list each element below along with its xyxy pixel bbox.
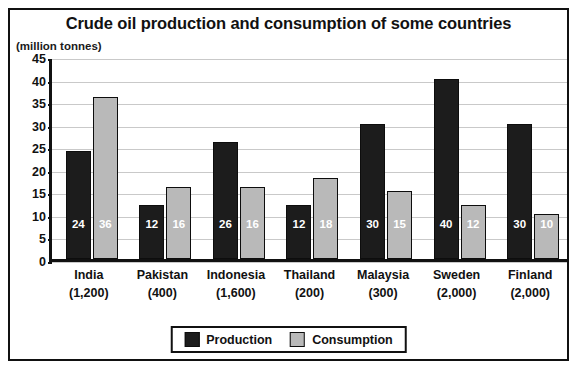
category-name: Thailand [273, 266, 347, 284]
bar-value-label: 18 [314, 218, 337, 230]
y-axis-tick-label: 15 [32, 187, 46, 201]
bar-group: 2616 [202, 59, 276, 259]
y-axis-tick-label: 45 [32, 52, 46, 66]
y-axis-tick-mark [48, 262, 52, 264]
y-axis-tick-label: 25 [32, 142, 46, 156]
bar-production: 30 [507, 124, 532, 259]
y-axis-tick-mark [48, 149, 52, 151]
chart-legend: Production Consumption [170, 326, 407, 353]
category-sublabel: (1,600) [199, 284, 273, 302]
y-axis-tick-mark [48, 59, 52, 61]
x-axis-category-label: Sweden(2,000) [420, 266, 494, 302]
plot-area: 051015202530354045 243612162616121830154… [49, 59, 567, 262]
category-sublabel: (2,000) [493, 284, 567, 302]
bar-production: 12 [286, 205, 311, 259]
x-axis-category-label: Malaysia(300) [346, 266, 420, 302]
legend-swatch-production-icon [184, 332, 199, 347]
y-axis-tick-mark [48, 127, 52, 129]
gridline [52, 262, 567, 263]
category-name: Malaysia [346, 266, 420, 284]
bar-production: 30 [360, 124, 385, 259]
bar-production: 40 [434, 79, 459, 259]
x-axis-category-labels: India(1,200)Pakistan(400)Indonesia(1,600… [52, 266, 570, 310]
bar-consumption: 18 [313, 178, 338, 259]
category-name: Indonesia [199, 266, 273, 284]
bar-production: 12 [139, 205, 164, 259]
bar-group: 3010 [496, 59, 570, 259]
category-sublabel: (1,200) [52, 284, 126, 302]
bar-group: 1218 [276, 59, 350, 259]
bar-value-label: 30 [361, 218, 384, 230]
bar-value-label: 10 [535, 218, 558, 230]
bar-consumption: 12 [461, 205, 486, 259]
y-axis-tick-mark [48, 104, 52, 106]
bar-production: 26 [213, 142, 238, 259]
category-name: Pakistan [126, 266, 200, 284]
x-axis-category-label: Indonesia(1,600) [199, 266, 273, 302]
bar-value-label: 16 [241, 218, 264, 230]
bar-consumption: 36 [93, 97, 118, 259]
bar-value-label: 15 [388, 218, 411, 230]
category-name: India [52, 266, 126, 284]
y-axis-tick-label: 40 [32, 75, 46, 89]
legend-swatch-consumption-icon [290, 332, 305, 347]
bar-value-label: 12 [462, 218, 485, 230]
bar-consumption: 16 [240, 187, 265, 259]
chart-figure: Crude oil production and consumption of … [8, 8, 569, 361]
y-axis-tick-label: 5 [39, 232, 46, 246]
bar-value-label: 24 [67, 218, 90, 230]
legend-label-production: Production [206, 333, 272, 347]
y-axis-tick-mark [48, 82, 52, 84]
x-axis-category-label: Finland(2,000) [493, 266, 567, 302]
legend-item-consumption: Consumption [290, 332, 393, 347]
bar-value-label: 12 [140, 218, 163, 230]
category-sublabel: (2,000) [420, 284, 494, 302]
x-axis-category-label: India(1,200) [52, 266, 126, 302]
y-axis-tick-label: 20 [32, 165, 46, 179]
bar-groups: 2436121626161218301540123010 [55, 59, 567, 259]
bar-group: 2436 [55, 59, 129, 259]
category-sublabel: (400) [126, 284, 200, 302]
legend-item-production: Production [184, 332, 272, 347]
bar-consumption: 15 [387, 191, 412, 259]
category-name: Finland [493, 266, 567, 284]
y-axis-tick-mark [48, 172, 52, 174]
y-axis-tick-mark [48, 239, 52, 241]
bar-value-label: 40 [435, 218, 458, 230]
y-axis-tick-mark [48, 194, 52, 196]
y-axis-tick-label: 35 [32, 97, 46, 111]
y-axis-unit-label: (million tonnes) [16, 40, 102, 52]
bar-value-label: 12 [287, 218, 310, 230]
bar-value-label: 30 [508, 218, 531, 230]
category-sublabel: (200) [273, 284, 347, 302]
bar-group: 3015 [349, 59, 423, 259]
y-axis-tick-label: 10 [32, 210, 46, 224]
bar-value-label: 26 [214, 218, 237, 230]
x-axis-category-label: Thailand(200) [273, 266, 347, 302]
bar-value-label: 16 [167, 218, 190, 230]
bar-group: 4012 [423, 59, 497, 259]
y-axis-tick-mark [48, 217, 52, 219]
category-name: Sweden [420, 266, 494, 284]
bar-value-label: 36 [94, 218, 117, 230]
category-sublabel: (300) [346, 284, 420, 302]
bar-consumption: 16 [166, 187, 191, 259]
bar-group: 1216 [129, 59, 203, 259]
y-axis-tick-label: 0 [39, 255, 46, 269]
bar-production: 24 [66, 151, 91, 259]
legend-label-consumption: Consumption [312, 333, 393, 347]
bar-consumption: 10 [534, 214, 559, 259]
chart-title: Crude oil production and consumption of … [10, 14, 567, 33]
y-axis-tick-label: 30 [32, 120, 46, 134]
x-axis-category-label: Pakistan(400) [126, 266, 200, 302]
